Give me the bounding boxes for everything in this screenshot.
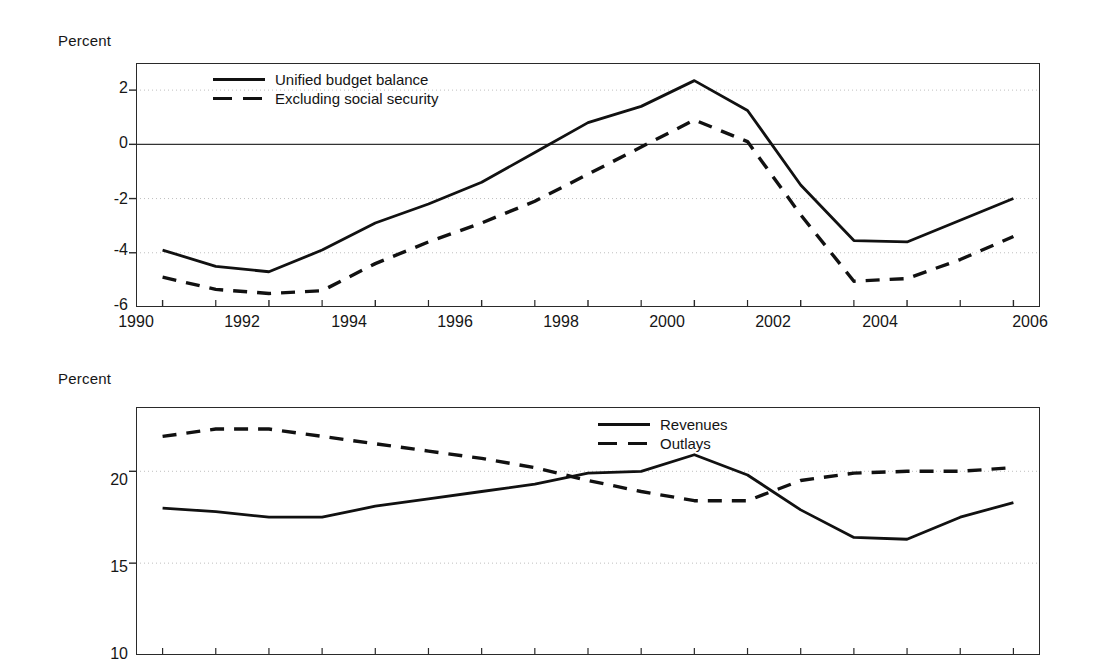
y-tick-label-top-4: -6 [92,296,128,314]
x-tick-label-top-6: 2002 [755,313,791,331]
x-tick-label-top-4: 1998 [543,313,579,331]
y-axis-title-bottom: Percent [58,370,111,387]
y-tick-label-top-1: 0 [92,134,128,152]
y-tick-label-bottom-2: 10 [85,645,128,660]
legend-label-bottom-1: Outlays [660,434,711,453]
x-tick-label-top-2: 1994 [331,313,367,331]
x-tick-label-top-7: 2004 [862,313,898,331]
legend-item-bottom-0: Revenues [598,415,728,434]
y-tick-label-bottom-1: 15 [85,558,128,576]
legend-item-top-0: Unified budget balance [213,70,438,89]
x-tick-label-top-5: 2000 [649,313,685,331]
x-tick-label-top-8: 2006 [1012,313,1048,331]
x-tick-label-top-0: 1990 [118,313,154,331]
chart-panel-bottom: Percent 20 15 10 Revenues Outlays [0,340,1098,660]
legend-label-top-0: Unified budget balance [275,70,428,89]
plot-area-bottom [136,407,1040,655]
y-tick-label-top-2: -2 [92,190,128,208]
legend-label-top-1: Excluding social security [275,89,438,108]
legend-item-bottom-1: Outlays [598,434,728,453]
x-tick-label-top-1: 1992 [224,313,260,331]
y-axis-title-top: Percent [58,32,111,49]
legend-key-dashed-icon [598,438,650,450]
y-tick-label-bottom-0: 20 [85,471,128,489]
chart-panel-top: Percent 2 0 -2 -4 -6 1990 1992 1994 1996… [0,0,1098,340]
legend-top: Unified budget balance Excluding social … [213,70,438,108]
legend-item-top-1: Excluding social security [213,89,438,108]
legend-key-dashed-icon [213,93,265,105]
y-tick-label-top-0: 2 [92,79,128,97]
y-tick-label-top-3: -4 [92,241,128,259]
x-tick-label-top-3: 1996 [437,313,473,331]
plot-frame-bottom [136,407,1040,655]
legend-bottom: Revenues Outlays [598,415,728,453]
legend-label-bottom-0: Revenues [660,415,728,434]
legend-key-solid-icon [598,419,650,431]
legend-key-solid-icon [213,74,265,86]
